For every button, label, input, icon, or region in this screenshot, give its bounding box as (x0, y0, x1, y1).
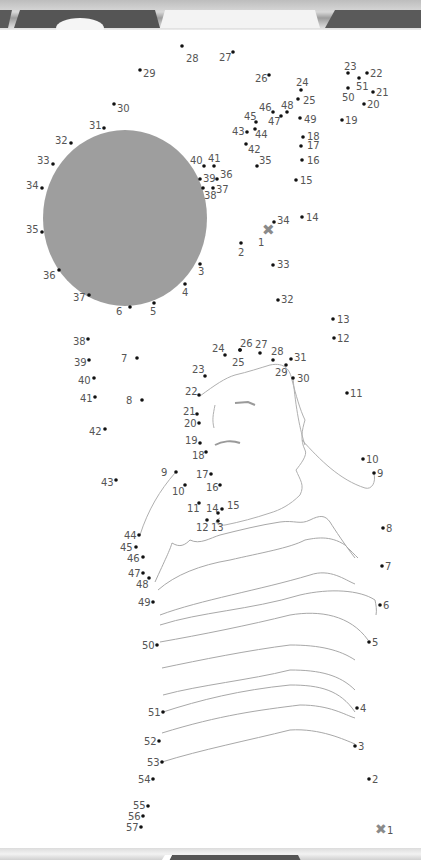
dot-point (157, 739, 161, 743)
bottom-bar-shapes (0, 851, 421, 860)
face-outline (140, 364, 375, 535)
start-marker-upper: ✖ 1 (258, 221, 275, 248)
dot-label: 12 (196, 522, 209, 533)
dot-label: 20 (367, 99, 380, 110)
dot-label: 41 (80, 393, 93, 404)
dot-point (195, 412, 199, 416)
dot-label: 40 (78, 375, 91, 386)
dot-label: 6 (116, 306, 122, 317)
dot-label: 50 (342, 92, 355, 103)
dot-point (137, 533, 141, 537)
dot-point (367, 777, 371, 781)
dot-label: 17 (307, 140, 320, 151)
dot-point (174, 470, 178, 474)
dot-label: 27 (255, 339, 268, 350)
dot-point (296, 97, 300, 101)
dot-label: 24 (212, 343, 225, 354)
dot-point (300, 158, 304, 162)
dot-point (161, 710, 165, 714)
dot-point (198, 177, 202, 181)
dot-label: 11 (187, 503, 200, 514)
dot-label: 5 (372, 637, 378, 648)
dot-label: 21 (376, 87, 389, 98)
dot-label: 9 (377, 468, 383, 479)
dot-point (92, 376, 96, 380)
dot-point (128, 305, 132, 309)
dot-label: 39 (203, 173, 216, 184)
dot-label: 19 (185, 435, 198, 446)
dot-label: 8 (126, 395, 132, 406)
dot-point (151, 777, 155, 781)
dot-label: 47 (268, 116, 281, 127)
dot-label: 19 (345, 115, 358, 126)
dot-point (345, 391, 349, 395)
dot-label: 21 (183, 406, 196, 417)
dot-label: 51 (148, 707, 161, 718)
dot-label: 6 (383, 600, 389, 611)
dot-point (103, 427, 107, 431)
dot-point (258, 351, 262, 355)
dot-point (231, 50, 235, 54)
dot-label: 48 (281, 100, 294, 111)
dot-point (299, 88, 303, 92)
dot-point (160, 760, 164, 764)
dot-point (372, 471, 376, 475)
dot-label: 36 (43, 270, 56, 281)
dot-label: 29 (143, 68, 156, 79)
svg-text:1: 1 (258, 237, 264, 248)
dot-label: 23 (192, 364, 205, 375)
dot-label: 17 (196, 469, 209, 480)
dot-point (357, 76, 361, 80)
dot-label: 36 (220, 169, 233, 180)
dot-point (220, 507, 224, 511)
svg-text:1: 1 (387, 825, 393, 836)
dot-point (271, 263, 275, 267)
dot-label: 45 (244, 111, 257, 122)
dot-point (209, 472, 213, 476)
sun-shape (43, 130, 207, 306)
dot-point (86, 337, 90, 341)
dot-label: 3 (198, 266, 204, 277)
dot-label: 16 (206, 482, 219, 493)
dot-label: 48 (136, 579, 149, 590)
dot-point (291, 376, 295, 380)
dot-point (87, 358, 91, 362)
dot-label: 54 (138, 774, 151, 785)
dot-label: 26 (255, 73, 268, 84)
dot-label: 7 (385, 561, 391, 572)
dots-lower-puzzle: 2345678910111213313029282726252423222120… (73, 314, 392, 833)
dot-label: 35 (26, 224, 39, 235)
dot-label: 44 (255, 129, 268, 140)
dot-label: 49 (304, 114, 317, 125)
dot-point (340, 118, 344, 122)
dot-point (332, 336, 336, 340)
dot-point (141, 814, 145, 818)
dot-point (380, 564, 384, 568)
dot-point (40, 186, 44, 190)
dot-label: 30 (117, 103, 130, 114)
dot-point (367, 640, 371, 644)
dot-label: 47 (128, 568, 141, 579)
dot-point (238, 348, 242, 352)
dot-label: 30 (297, 373, 310, 384)
dot-point (51, 162, 55, 166)
dot-label: 15 (227, 500, 240, 511)
dot-label: 5 (150, 306, 156, 317)
dot-point (102, 126, 106, 130)
dot-point (298, 116, 302, 120)
dot-point (331, 317, 335, 321)
dot-point (138, 68, 142, 72)
dot-point (180, 44, 184, 48)
dot-label: 34 (277, 215, 290, 226)
dot-label: 31 (89, 120, 102, 131)
dot-point (198, 441, 202, 445)
dot-point (183, 282, 187, 286)
dot-point (211, 186, 215, 190)
dot-label: 53 (147, 757, 160, 768)
dot-label: 11 (350, 388, 363, 399)
dot-point (239, 241, 243, 245)
dot-label: 4 (182, 287, 188, 298)
dot-point (112, 102, 116, 106)
dot-label: 51 (356, 81, 369, 92)
dot-point (134, 545, 138, 549)
